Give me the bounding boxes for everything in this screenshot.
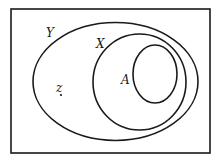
set-y-label: Y — [46, 26, 55, 40]
point-z-dot — [60, 94, 62, 96]
set-a-label: A — [120, 73, 130, 87]
set-x-label: X — [95, 37, 105, 51]
set-x-ellipse — [93, 34, 186, 130]
set-a-ellipse — [133, 45, 177, 103]
universe-rectangle — [11, 9, 210, 153]
point-z-label: z — [55, 81, 63, 95]
venn-diagram: Y X A z — [0, 0, 221, 163]
